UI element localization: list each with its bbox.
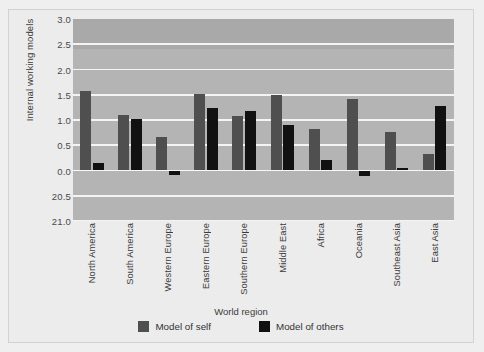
y-tick-label: 1.5 xyxy=(57,89,71,100)
bar-model-of-others xyxy=(93,163,104,170)
bar-model-of-others xyxy=(169,171,180,175)
bar-model-of-self xyxy=(423,154,434,171)
legend-swatch-icon xyxy=(138,321,149,332)
bar-group xyxy=(378,19,416,221)
bar-model-of-self xyxy=(385,132,396,170)
x-tick-label: North America xyxy=(87,223,97,283)
x-tick-label: Eastern Europe xyxy=(201,223,211,289)
bar-model-of-self xyxy=(232,116,243,171)
x-axis-tick-labels: North AmericaSouth AmericaWestern Europe… xyxy=(73,223,454,309)
x-tick-label: Western Europe xyxy=(163,223,173,291)
x-tick-label: Middle East xyxy=(278,223,288,273)
y-tick-label: 2.5 xyxy=(57,39,71,50)
bar-model-of-self xyxy=(347,99,358,170)
bar-group xyxy=(187,19,225,221)
plot-area xyxy=(73,19,454,221)
x-axis-title: World region xyxy=(9,306,473,317)
bar-model-of-self xyxy=(271,95,282,170)
x-tick-label: Africa xyxy=(316,223,326,247)
legend-label: Model of self xyxy=(155,321,211,332)
y-axis-tick-labels: 3.02.52.01.51.00.50.020.521.0 xyxy=(27,10,71,230)
bar-model-of-self xyxy=(118,115,129,171)
legend-item[interactable]: Model of self xyxy=(138,321,211,332)
x-tick-label: Oceania xyxy=(354,223,364,258)
x-tick-label: East Asia xyxy=(430,223,440,263)
y-tick-label: 1.0 xyxy=(57,115,71,126)
bar-group xyxy=(340,19,378,221)
bar-model-of-others xyxy=(131,119,142,171)
chart-legend: Model of selfModel of others xyxy=(9,321,473,332)
bar-model-of-others xyxy=(207,108,218,171)
y-tick-label: 21.0 xyxy=(52,216,71,227)
bar-group xyxy=(416,19,454,221)
bar-model-of-others xyxy=(245,111,256,171)
x-tick-label: Southeast Asia xyxy=(392,223,402,286)
bar-model-of-self xyxy=(156,137,167,170)
bar-model-of-others xyxy=(359,171,370,176)
x-tick-label: South America xyxy=(125,223,135,285)
y-tick-label: 20.5 xyxy=(52,190,71,201)
chart-figure: Internal working models 3.02.52.01.51.00… xyxy=(8,9,474,343)
bar-model-of-self xyxy=(194,94,205,171)
y-tick-label: 0.0 xyxy=(57,165,71,176)
bar-group xyxy=(111,19,149,221)
bar-group xyxy=(225,19,263,221)
bar-group xyxy=(302,19,340,221)
y-tick-label: 0.5 xyxy=(57,140,71,151)
y-tick-label: 3.0 xyxy=(57,14,71,25)
legend-swatch-icon xyxy=(259,321,270,332)
bar-model-of-self xyxy=(80,91,91,171)
bar-group xyxy=(264,19,302,221)
legend-label: Model of others xyxy=(276,321,344,332)
bar-model-of-self xyxy=(309,129,320,170)
y-tick-label: 2.0 xyxy=(57,64,71,75)
bar-model-of-others xyxy=(397,168,408,171)
x-tick-label: Southern Europe xyxy=(239,223,249,295)
bar-group xyxy=(149,19,187,221)
bar-model-of-others xyxy=(321,160,332,170)
bar-group xyxy=(73,19,111,221)
legend-item[interactable]: Model of others xyxy=(259,321,344,332)
bar-model-of-others xyxy=(435,106,446,171)
bar-model-of-others xyxy=(283,125,294,170)
